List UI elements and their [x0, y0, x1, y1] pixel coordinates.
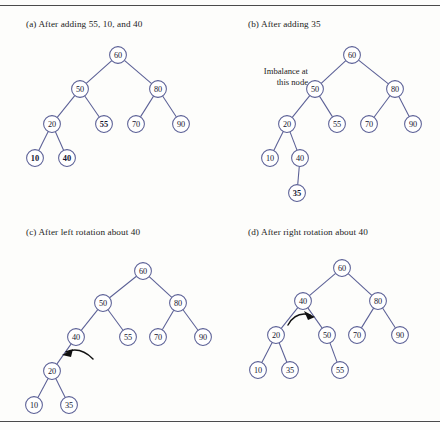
tree-node-label: 60: [114, 51, 122, 60]
tree-edge: [309, 273, 335, 295]
tree-node-label: 90: [409, 120, 417, 129]
tree-node-label: 80: [174, 299, 182, 308]
tree-edge: [81, 310, 98, 331]
tree-node: 60: [110, 47, 127, 64]
tree-diagrams: 6050802055709010406050802055709010403560…: [0, 0, 440, 430]
tree-node: 55: [329, 116, 346, 133]
tree-node: 20: [44, 116, 61, 133]
tree-edge: [56, 379, 65, 398]
tree-node: 80: [387, 81, 404, 98]
tree-edge: [110, 276, 137, 298]
tree-node-label: 20: [48, 120, 56, 129]
tree-node: 50: [307, 81, 324, 98]
tree-node: 10: [262, 150, 279, 167]
tree-node: 50: [95, 295, 112, 312]
tree-node-label: 50: [323, 331, 331, 340]
tree-node: 55: [332, 362, 349, 379]
tree-node: 10: [250, 362, 267, 379]
tree-node: 60: [334, 260, 351, 277]
tree-node-label: 90: [396, 331, 404, 340]
tree-node-label: 10: [31, 154, 39, 163]
tree-node-label: 55: [100, 120, 108, 129]
tree-node: 50: [72, 81, 89, 98]
tree-edge: [183, 310, 198, 330]
tree-panel-d: 60408020507090103555: [250, 260, 409, 379]
tree-node: 40: [68, 329, 85, 346]
tree-node-label: 70: [154, 333, 162, 342]
tree-node: 10: [26, 397, 43, 414]
tree-edge: [330, 343, 337, 362]
tree-node-label: 60: [139, 267, 147, 276]
tree-edge: [399, 96, 409, 116]
tree-node-label: 80: [154, 85, 162, 94]
tree-node-label: 20: [283, 120, 291, 129]
tree-edge: [298, 166, 300, 184]
tree-node-label: 70: [365, 120, 373, 129]
tree-edge: [359, 60, 389, 84]
tree-edge: [262, 342, 272, 362]
tree-node: 55: [120, 329, 137, 346]
tree-edge: [162, 310, 173, 330]
tree-edge: [39, 132, 48, 151]
tree-node-label: 70: [132, 120, 140, 129]
tree-edge: [274, 132, 283, 151]
tree-node: 70: [128, 116, 145, 133]
tree-node: 90: [392, 327, 409, 344]
tree-edge: [55, 132, 63, 151]
tree-edge: [149, 277, 172, 298]
tree-node: 40: [292, 150, 309, 167]
tree-node: 20: [268, 327, 285, 344]
tree-node-label: 55: [124, 333, 132, 342]
tree-node-label: 90: [199, 333, 207, 342]
tree-node: 80: [370, 293, 387, 310]
tree-node-label: 20: [272, 331, 280, 340]
tree-node: 35: [61, 397, 78, 414]
tree-node-label: 70: [353, 331, 361, 340]
tree-node-label: 50: [99, 299, 107, 308]
tree-node-label: 80: [391, 85, 399, 94]
tree-node: 50: [319, 327, 336, 344]
tree-edge: [124, 60, 151, 83]
tree-edge: [290, 132, 297, 150]
tree-node: 20: [279, 116, 296, 133]
tree-node-label: 50: [76, 85, 84, 94]
tree-edge: [85, 96, 100, 117]
tree-node-label: 35: [293, 189, 301, 198]
tree-node-label: 10: [30, 401, 38, 410]
rotation-arrow-head: [62, 349, 73, 357]
tree-edge: [321, 61, 346, 84]
tree-node: 70: [349, 327, 366, 344]
tree-node-label: 60: [348, 51, 356, 60]
tree-node: 90: [195, 329, 212, 346]
tree-node: 35: [282, 362, 299, 379]
tree-panel-c: 60508040557090201035: [26, 263, 212, 414]
tree-edge: [38, 378, 48, 397]
tree-node: 40: [295, 293, 312, 310]
tree-node: 40: [59, 150, 76, 167]
tree-node: 55: [96, 116, 113, 133]
tree-node: 90: [405, 116, 422, 133]
tree-node-label: 35: [65, 401, 73, 410]
tree-edge: [348, 274, 372, 296]
tree-node-label: 90: [177, 120, 185, 129]
tree-node: 10: [27, 150, 44, 167]
tree-edge: [163, 96, 177, 117]
avl-rotation-figure: (a) After adding 55, 10, and 40 (b) Afte…: [0, 0, 440, 430]
tree-node: 80: [170, 295, 187, 312]
tree-node-label: 40: [63, 154, 71, 163]
tree-node-label: 10: [254, 366, 262, 375]
tree-node-label: 40: [72, 333, 80, 342]
tree-node-label: 10: [266, 154, 274, 163]
tree-edge: [279, 343, 287, 362]
tree-edge: [108, 310, 123, 330]
tree-node-label: 60: [338, 264, 346, 273]
tree-node: 80: [150, 81, 167, 98]
tree-node-label: 40: [299, 297, 307, 306]
tree-node: 90: [173, 116, 190, 133]
tree-node-label: 55: [336, 366, 344, 375]
tree-edge: [383, 308, 396, 328]
tree-node: 35: [289, 185, 306, 202]
tree-edge: [57, 96, 75, 118]
tree-node-label: 80: [374, 297, 382, 306]
tree-node: 20: [44, 363, 61, 380]
